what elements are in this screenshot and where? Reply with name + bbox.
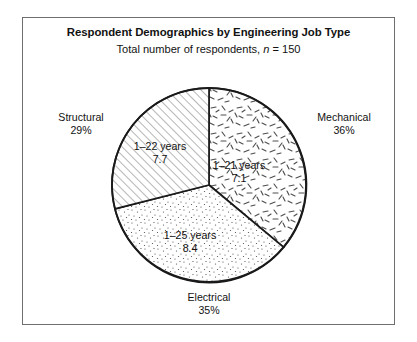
chart-subtitle-prefix: Total number of respondents, xyxy=(116,43,263,55)
title-block: Respondent Demographics by Engineering J… xyxy=(23,25,394,57)
page-title: Respondent Demographics by Engineering J… xyxy=(23,25,394,40)
chart-subtitle: Total number of respondents, n = 150 xyxy=(23,42,394,57)
chart-subtitle-suffix: = 150 xyxy=(269,43,300,55)
figure-frame: Respondent Demographics by Engineering J… xyxy=(22,17,395,325)
